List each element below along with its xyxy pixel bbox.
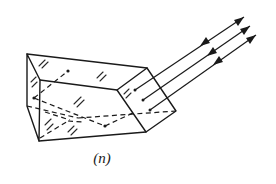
hidden-edge-bottom <box>78 111 176 118</box>
internal-ray-f <box>68 121 82 122</box>
reflection-point <box>103 124 106 127</box>
arrow-in-icon <box>207 47 217 56</box>
right-face-edge <box>117 68 176 132</box>
arrow-out-icon <box>246 35 256 44</box>
arrow-out-icon <box>240 26 250 35</box>
rays <box>134 17 257 112</box>
arrow-out-icon <box>234 17 244 26</box>
top-edge <box>27 54 147 68</box>
ray-1 <box>134 17 245 92</box>
arrow-in-icon <box>200 37 210 46</box>
bottom-edge <box>39 132 146 141</box>
prism-diagram <box>0 0 276 184</box>
internal-ray-e <box>40 121 68 138</box>
internal-ray-c <box>105 112 135 126</box>
ridge-edge <box>40 80 117 90</box>
internal-ray-d <box>45 112 70 120</box>
reflection-point <box>32 96 35 99</box>
reflection-point <box>66 69 69 72</box>
figure-caption: (n) <box>82 150 122 167</box>
arrow-in-icon <box>213 56 223 65</box>
glass-hatching <box>31 60 131 135</box>
ray-2 <box>142 26 251 102</box>
ray-3 <box>149 35 257 112</box>
internal-ray-b <box>34 98 105 126</box>
